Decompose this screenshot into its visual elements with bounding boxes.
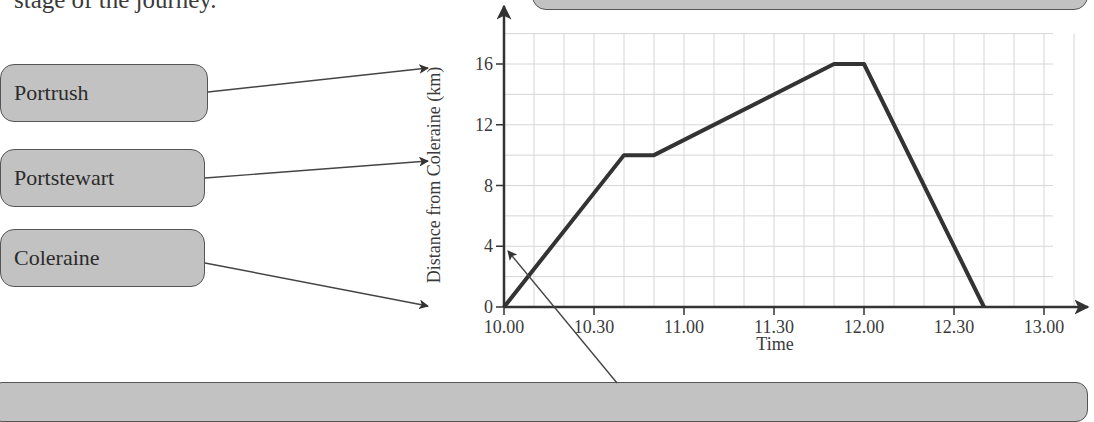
y-axis-title: Distance from Coleraine (km)	[424, 67, 445, 283]
x-tick-label: 12.30	[934, 317, 975, 337]
y-axis-ticks: 0481216	[475, 54, 504, 317]
x-axis-ticks: 10.0010.3011.0011.3012.0012.3013.00	[484, 307, 1065, 337]
arrow-coleraine-to-origin	[205, 263, 428, 306]
chart-grid	[504, 34, 1074, 307]
y-tick-label: 0	[484, 297, 493, 317]
x-tick-label: 10.30	[574, 317, 615, 337]
arrow-portrush-to-16km	[208, 68, 428, 92]
y-tick-label: 4	[484, 236, 493, 256]
arrow-portstewart-to-axis	[205, 161, 428, 178]
x-tick-label: 13.00	[1024, 317, 1065, 337]
x-tick-label: 10.00	[484, 317, 525, 337]
y-tick-label: 16	[475, 54, 493, 74]
x-tick-label: 12.00	[844, 317, 885, 337]
y-tick-label: 8	[484, 176, 493, 196]
x-tick-label: 11.00	[664, 317, 704, 337]
x-axis-title: Time	[756, 334, 793, 354]
y-tick-label: 12	[475, 115, 493, 135]
